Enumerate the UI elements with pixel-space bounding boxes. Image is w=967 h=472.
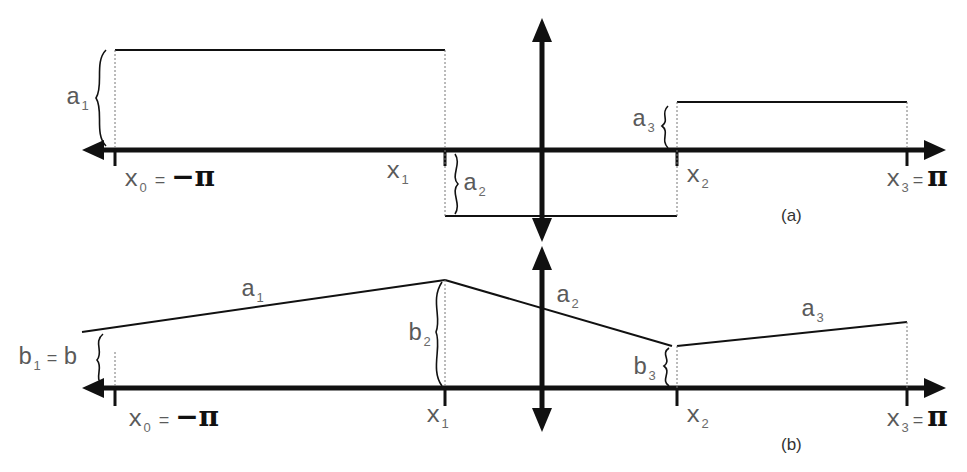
arrow-down-icon [532,408,552,432]
ticks-b [115,388,907,406]
svg-text:a3: a3 [801,296,824,325]
arrow-left-icon [82,378,104,398]
arrow-down-icon [532,218,552,242]
svg-text:b2: b2 [408,320,431,349]
caption-a: (a) [781,206,802,225]
panel-b: a1 a2 a3 b1=b b2 b3 x0=−π x1 x2 x3=π (b) [18,246,948,454]
caption-b: (b) [781,435,802,454]
x0-label-a: x0=−π [124,160,215,195]
arrow-right-icon [924,378,946,398]
arrow-up-icon [532,18,552,42]
x1-label-b: x1 [426,402,449,431]
labels-a: a1 a2 a3 x0=−π x1 x2 x3=π (a) [66,84,948,225]
dotted-guides-a [115,50,907,216]
arrow-left-icon [82,140,104,160]
svg-text:a1: a1 [241,276,264,305]
brace-b2-icon [436,282,442,386]
x2-label-b: x2 [686,402,709,431]
svg-text:a1: a1 [66,84,89,113]
step-function [115,50,907,216]
brace-b1-icon [97,334,103,386]
x0-label-b: x0=−π [128,400,219,435]
svg-text:a2: a2 [556,282,579,311]
svg-text:a2: a2 [463,170,486,199]
x2-label-a: x2 [686,162,709,191]
y-axis-b [532,246,552,432]
labels-b: a1 a2 a3 b1=b b2 b3 x0=−π x1 x2 x3=π (b) [18,276,948,454]
x-axis-a [82,140,946,160]
braces-b [97,282,669,386]
panel-a: a1 a2 a3 x0=−π x1 x2 x3=π (a) [66,18,948,242]
arrow-up-icon [532,246,552,270]
brace-a3-icon [662,106,668,148]
piecewise-function-diagram: a1 a2 a3 x0=−π x1 x2 x3=π (a) [0,0,967,472]
x1-label-a: x1 [386,158,409,187]
y-axis-a [532,18,552,242]
brace-b3-icon [664,348,669,386]
x-axis-b [82,378,946,398]
svg-text:b3: b3 [633,354,656,383]
x3-label-b: x3=π [886,400,948,435]
arrow-right-icon [924,140,946,160]
piecewise-linear-function [82,280,907,346]
svg-text:a3: a3 [632,106,655,135]
brace-a1-icon [96,50,106,146]
brace-a2-icon [455,154,458,214]
b1-label: b1=b [18,344,78,373]
x3-label-a: x3=π [886,160,948,195]
